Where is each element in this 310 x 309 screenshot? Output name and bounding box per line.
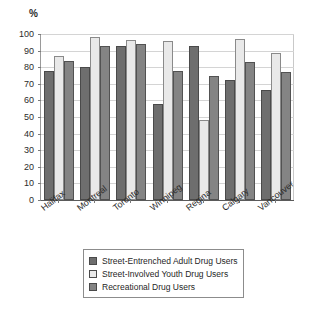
bar[interactable] [136,44,146,200]
bar[interactable] [245,62,255,200]
bar[interactable] [173,71,183,200]
y-tick-mark [38,51,41,52]
y-tick-mark [38,67,41,68]
y-tick-mark [38,183,41,184]
bar-group [153,34,183,200]
bar[interactable] [100,46,110,200]
bar[interactable] [209,76,219,201]
bar[interactable] [44,71,54,200]
bar-group [225,34,255,200]
legend-item[interactable]: Street-Involved Youth Drug Users [89,267,238,280]
bar[interactable] [163,41,173,200]
y-tick-label: 0 [0,196,34,205]
legend-item[interactable]: Street-Entrenched Adult Drug Users [89,254,238,267]
bar[interactable] [116,46,126,200]
bar[interactable] [261,90,271,200]
bar[interactable] [225,80,235,200]
y-tick-label: 80 [0,63,34,72]
legend-label: Street-Entrenched Adult Drug Users [102,256,238,266]
bar[interactable] [80,67,90,200]
y-tick-mark [38,150,41,151]
legend-swatch-icon [89,257,97,265]
bar-chart: % 1009080706050403020100 HalifaxMontreal… [0,0,310,309]
y-tick-label: 90 [0,47,34,56]
y-tick-mark [38,100,41,101]
bar[interactable] [90,37,100,200]
legend-swatch-icon [89,270,97,278]
y-tick-label: 20 [0,163,34,172]
legend-item[interactable]: Recreational Drug Users [89,280,238,293]
y-tick-mark [38,34,41,35]
y-tick-label: 50 [0,113,34,122]
bar-group [116,34,146,200]
y-tick-mark [38,117,41,118]
bar-group [80,34,110,200]
bar[interactable] [54,56,64,200]
y-tick-mark [38,200,41,201]
y-tick-label: 60 [0,96,34,105]
y-tick-label: 30 [0,146,34,155]
y-tick-label: 100 [0,30,34,39]
chart-legend: Street-Entrenched Adult Drug Users Stree… [83,249,244,298]
y-tick-mark [38,134,41,135]
y-tick-label: 40 [0,130,34,139]
bar[interactable] [153,104,163,200]
bar-group [261,34,291,200]
bar[interactable] [189,46,199,200]
plot-area [40,34,294,201]
legend-label: Street-Involved Youth Drug Users [102,269,228,279]
y-axis-unit-label: % [29,8,38,19]
bar[interactable] [271,53,281,200]
y-tick-label: 10 [0,179,34,188]
y-tick-mark [38,167,41,168]
bar[interactable] [126,40,136,200]
bar-group [44,34,74,200]
y-tick-mark [38,84,41,85]
legend-swatch-icon [89,283,97,291]
y-tick-label: 70 [0,80,34,89]
bar-group [189,34,219,200]
bar[interactable] [64,61,74,200]
legend-label: Recreational Drug Users [102,282,195,292]
bar[interactable] [235,39,245,200]
